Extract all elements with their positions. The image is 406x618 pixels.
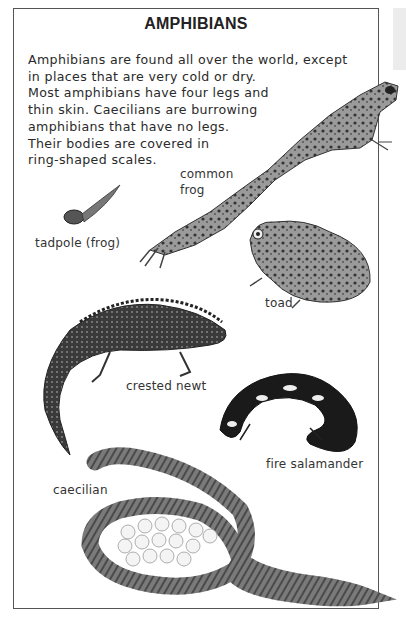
label-toad: toad bbox=[265, 295, 293, 311]
intro-line: Most amphibians have four legs and bbox=[28, 85, 378, 102]
label-common-frog-line2: frog bbox=[180, 182, 233, 198]
intro-line: Amphibians are found all over the world,… bbox=[28, 52, 378, 69]
label-common-frog: common frog bbox=[180, 166, 233, 198]
caecilian-illustration bbox=[90, 456, 365, 598]
intro-line: amphibians that have no legs. bbox=[28, 119, 378, 136]
intro-line: in places that are very cold or dry. bbox=[28, 69, 378, 86]
fire-salamander-illustration bbox=[220, 374, 357, 452]
intro-line: thin skin. Caecilians are burrowing bbox=[28, 102, 378, 119]
label-caecilian: caecilian bbox=[53, 482, 108, 498]
page-title: AMPHIBIANS bbox=[13, 15, 379, 33]
intro-paragraph: Amphibians are found all over the world,… bbox=[28, 52, 378, 169]
label-crested-newt: crested newt bbox=[126, 378, 206, 394]
intro-line: Their bodies are covered in bbox=[28, 136, 378, 153]
caecilian-eggs bbox=[118, 517, 217, 566]
label-fire-salamander: fire salamander bbox=[266, 456, 363, 472]
label-tadpole: tadpole (frog) bbox=[35, 235, 120, 251]
tadpole-illustration bbox=[64, 185, 120, 224]
label-common-frog-line1: common bbox=[180, 166, 233, 182]
